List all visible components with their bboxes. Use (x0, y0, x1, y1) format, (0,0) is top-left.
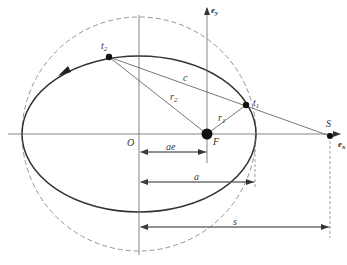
orbit-diagram: O F S t1 t2 r1 r2 c ae a s ex ey (0, 0, 347, 265)
focus-point (202, 129, 213, 140)
label-r2: r2 (170, 91, 178, 104)
label-o: O (127, 137, 134, 148)
label-f: F (212, 136, 220, 147)
label-c: c (183, 72, 188, 83)
chord-c (109, 57, 330, 136)
label-s: S (326, 118, 331, 129)
label-a: a (194, 171, 199, 182)
point-s (327, 133, 333, 139)
label-s-dim: s (233, 216, 237, 227)
point-t1 (243, 102, 249, 108)
point-t2 (106, 54, 112, 60)
label-t2: t2 (101, 40, 108, 53)
label-t1: t1 (253, 97, 259, 110)
radius-r2 (109, 57, 207, 134)
label-ae: ae (166, 141, 176, 152)
radius-r1 (207, 105, 246, 134)
label-ey: ey (211, 5, 219, 17)
label-r1: r1 (218, 112, 225, 125)
label-ex: ex (338, 139, 346, 151)
